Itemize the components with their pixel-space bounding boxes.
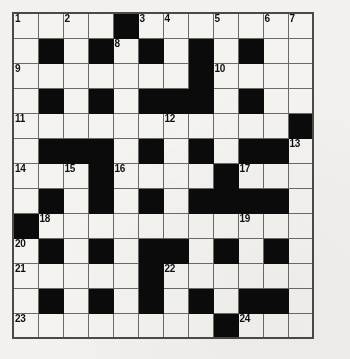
- crossword-cell[interactable]: [13, 288, 38, 313]
- crossword-cell[interactable]: 10: [213, 63, 238, 88]
- crossword-cell[interactable]: [288, 288, 313, 313]
- crossword-cell[interactable]: [188, 13, 213, 38]
- crossword-cell[interactable]: [138, 113, 163, 138]
- crossword-cell[interactable]: [238, 238, 263, 263]
- crossword-cell[interactable]: [38, 313, 63, 338]
- crossword-cell[interactable]: 24: [238, 313, 263, 338]
- crossword-cell[interactable]: [238, 13, 263, 38]
- crossword-cell[interactable]: [88, 263, 113, 288]
- crossword-cell[interactable]: [288, 163, 313, 188]
- crossword-cell[interactable]: 4: [163, 13, 188, 38]
- crossword-cell[interactable]: 5: [213, 13, 238, 38]
- crossword-cell[interactable]: 16: [113, 163, 138, 188]
- crossword-cell[interactable]: [88, 213, 113, 238]
- crossword-cell[interactable]: [88, 313, 113, 338]
- crossword-cell[interactable]: [163, 63, 188, 88]
- crossword-cell[interactable]: [113, 288, 138, 313]
- crossword-cell[interactable]: [213, 288, 238, 313]
- crossword-cell[interactable]: [113, 238, 138, 263]
- crossword-cell[interactable]: [163, 313, 188, 338]
- crossword-cell[interactable]: 2: [63, 13, 88, 38]
- crossword-cell[interactable]: [63, 88, 88, 113]
- crossword-cell[interactable]: [288, 88, 313, 113]
- crossword-cell[interactable]: [188, 263, 213, 288]
- crossword-cell[interactable]: 11: [13, 113, 38, 138]
- crossword-cell[interactable]: [113, 263, 138, 288]
- crossword-cell[interactable]: [263, 313, 288, 338]
- crossword-cell[interactable]: [238, 263, 263, 288]
- crossword-cell[interactable]: [13, 38, 38, 63]
- crossword-cell[interactable]: 8: [113, 38, 138, 63]
- crossword-cell[interactable]: [163, 38, 188, 63]
- crossword-cell[interactable]: [288, 38, 313, 63]
- crossword-cell[interactable]: 18: [38, 213, 63, 238]
- crossword-cell[interactable]: 22: [163, 263, 188, 288]
- crossword-cell[interactable]: [113, 313, 138, 338]
- crossword-cell[interactable]: [63, 63, 88, 88]
- crossword-cell[interactable]: 19: [238, 213, 263, 238]
- crossword-cell[interactable]: [213, 138, 238, 163]
- crossword-cell[interactable]: 17: [238, 163, 263, 188]
- crossword-cell[interactable]: [38, 113, 63, 138]
- crossword-cell[interactable]: 7: [288, 13, 313, 38]
- crossword-cell[interactable]: [188, 113, 213, 138]
- crossword-cell[interactable]: [138, 163, 163, 188]
- crossword-cell[interactable]: [263, 63, 288, 88]
- crossword-cell[interactable]: [13, 188, 38, 213]
- crossword-cell[interactable]: [163, 138, 188, 163]
- crossword-cell[interactable]: [263, 38, 288, 63]
- crossword-cell[interactable]: [188, 313, 213, 338]
- crossword-cell[interactable]: 23: [13, 313, 38, 338]
- crossword-cell[interactable]: [238, 63, 263, 88]
- crossword-cell[interactable]: [263, 163, 288, 188]
- crossword-cell[interactable]: [13, 88, 38, 113]
- crossword-cell[interactable]: [38, 263, 63, 288]
- crossword-cell[interactable]: [188, 238, 213, 263]
- crossword-cell[interactable]: [213, 213, 238, 238]
- crossword-cell[interactable]: 13: [288, 138, 313, 163]
- crossword-cell[interactable]: [88, 113, 113, 138]
- crossword-cell[interactable]: [288, 263, 313, 288]
- crossword-cell[interactable]: [138, 213, 163, 238]
- crossword-cell[interactable]: [63, 38, 88, 63]
- crossword-cell[interactable]: [38, 63, 63, 88]
- crossword-cell[interactable]: [88, 13, 113, 38]
- crossword-cell[interactable]: 14: [13, 163, 38, 188]
- crossword-cell[interactable]: [213, 88, 238, 113]
- crossword-cell[interactable]: [13, 138, 38, 163]
- crossword-cell[interactable]: [213, 38, 238, 63]
- crossword-cell[interactable]: 3: [138, 13, 163, 38]
- crossword-cell[interactable]: 1: [13, 13, 38, 38]
- crossword-cell[interactable]: [188, 163, 213, 188]
- crossword-cell[interactable]: [88, 63, 113, 88]
- crossword-cell[interactable]: [163, 188, 188, 213]
- crossword-cell[interactable]: [163, 163, 188, 188]
- crossword-cell[interactable]: 20: [13, 238, 38, 263]
- crossword-cell[interactable]: 12: [163, 113, 188, 138]
- crossword-cell[interactable]: [63, 313, 88, 338]
- crossword-cell[interactable]: [288, 63, 313, 88]
- crossword-cell[interactable]: [288, 313, 313, 338]
- crossword-cell[interactable]: [138, 313, 163, 338]
- crossword-cell[interactable]: [188, 213, 213, 238]
- crossword-cell[interactable]: [63, 238, 88, 263]
- crossword-cell[interactable]: [63, 263, 88, 288]
- crossword-cell[interactable]: [38, 163, 63, 188]
- crossword-cell[interactable]: [113, 63, 138, 88]
- crossword-cell[interactable]: [288, 188, 313, 213]
- crossword-cell[interactable]: [263, 263, 288, 288]
- crossword-cell[interactable]: [63, 188, 88, 213]
- crossword-cell[interactable]: [288, 213, 313, 238]
- crossword-cell[interactable]: 6: [263, 13, 288, 38]
- crossword-cell[interactable]: [63, 213, 88, 238]
- crossword-cell[interactable]: [163, 213, 188, 238]
- crossword-cell[interactable]: [213, 113, 238, 138]
- crossword-cell[interactable]: [263, 213, 288, 238]
- crossword-cell[interactable]: [113, 213, 138, 238]
- crossword-cell[interactable]: [238, 113, 263, 138]
- crossword-cell[interactable]: 15: [63, 163, 88, 188]
- crossword-cell[interactable]: [213, 263, 238, 288]
- crossword-cell[interactable]: [113, 188, 138, 213]
- crossword-cell[interactable]: [288, 238, 313, 263]
- crossword-cell[interactable]: 21: [13, 263, 38, 288]
